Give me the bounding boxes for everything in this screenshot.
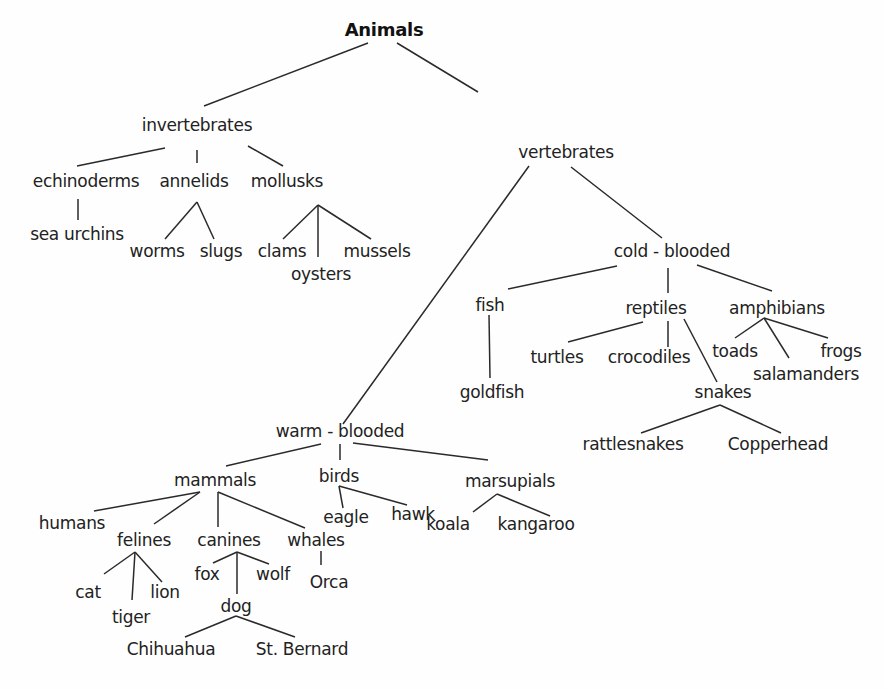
node-salamanders: salamanders [753,364,859,384]
node-turtles: turtles [530,347,583,367]
node-mussels: mussels [344,241,411,261]
tree-edge [236,616,295,637]
node-dog: dog [220,596,251,616]
tree-edge [489,315,490,378]
node-invertebrates: invertebrates [142,115,252,135]
tree-edge [508,266,617,289]
node-snakes: snakes [695,382,752,402]
node-wolf: wolf [256,564,290,584]
node-annelids: annelids [159,171,228,191]
node-orca: Orca [310,572,349,592]
tree-edge [397,43,478,92]
tree-edge [571,167,662,238]
node-frogs: frogs [820,341,861,361]
node-eagle: eagle [323,507,368,527]
node-chihuahua: Chihuahua [127,639,216,659]
tree-edge [226,444,321,466]
node-cat: cat [75,582,101,602]
tree-edge [197,202,214,239]
node-amphibians: amphibians [729,298,825,318]
node-rattlesnakes: rattlesnakes [583,434,684,454]
node-mammals: mammals [174,470,256,490]
node-copperhead: Copperhead [728,434,828,454]
node-slugs: slugs [200,241,243,261]
node-animals: Animals [345,19,424,40]
tree-edge [473,494,497,512]
tree-edge [104,552,135,574]
node-humans: humans [39,513,105,533]
tree-edge [165,202,197,239]
node-kangaroo: kangaroo [498,514,575,534]
tree-edge [735,318,764,338]
tree-edge [204,43,368,106]
node-marsupials: marsupials [465,471,555,491]
node-mollusks: mollusks [251,171,323,191]
node-canines: canines [197,530,260,550]
tree-edge [697,265,772,291]
node-sea-urchins: sea urchins [30,224,124,244]
tree-edge [132,552,135,600]
node-koala: koala [426,514,470,534]
tree-edge [185,616,236,637]
node-tiger: tiger [112,607,150,627]
node-clams: clams [258,241,306,261]
node-vertebrates: vertebrates [518,142,614,162]
node-worms: worms [130,241,185,261]
node-reptiles: reptiles [626,298,687,318]
tree-edge [568,322,643,342]
tree-edge [339,486,407,505]
node-crocodiles: crocodiles [608,347,691,367]
tree-edge [94,492,200,511]
tree-edge [641,405,720,433]
tree-edge [237,552,269,564]
tree-edge [213,552,237,563]
tree-edge [135,552,162,582]
node-fox: fox [194,564,219,584]
node-cold-blooded: cold - blooded [614,241,730,261]
node-whales: whales [287,530,344,550]
node-goldfish: goldfish [460,382,525,402]
tree-edge [318,205,371,239]
tree-edge [497,494,550,516]
tree-edge [339,486,343,508]
tree-edge [720,405,781,433]
node-warm-blooded: warm - blooded [276,421,405,441]
node-toads: toads [712,341,758,361]
tree-edge [248,146,283,166]
node-lion: lion [150,582,179,602]
node-oysters: oysters [291,264,351,284]
node-st-bernard: St. Bernard [256,639,348,659]
tree-edge [283,205,318,239]
tree-edge [218,492,305,528]
tree-edge [77,148,165,166]
tree-edge [353,443,488,460]
node-felines: felines [117,530,171,550]
tree-edge [764,318,828,338]
node-fish: fish [475,295,504,315]
animal-classification-diagram: Animals invertebrates vertebrates echino… [0,0,885,690]
node-echinoderms: echinoderms [33,171,140,191]
node-birds: birds [319,466,359,486]
